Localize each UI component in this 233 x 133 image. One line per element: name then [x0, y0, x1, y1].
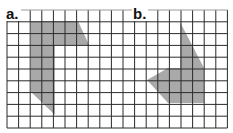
grid-figure: a. b. [0, 0, 233, 133]
grid-canvas [0, 0, 233, 133]
shape-a-l-polygon [31, 21, 89, 115]
label-a: a. [5, 6, 21, 21]
shape-b-polygon [147, 22, 204, 103]
label-b: b. [132, 6, 148, 21]
